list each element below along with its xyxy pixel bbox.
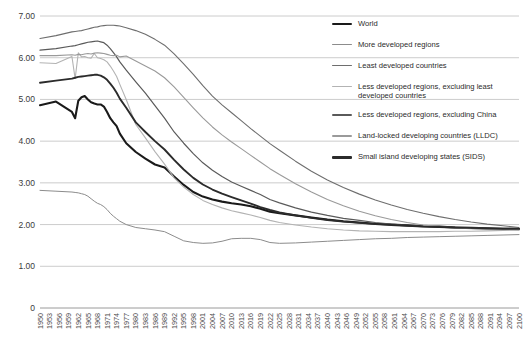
x-axis-tick-label: 2070 — [419, 313, 428, 329]
x-axis-tick-label: 2067 — [409, 313, 418, 329]
x-axis-tick-label: 2031 — [294, 313, 303, 329]
x-axis-tick-label: 2079 — [448, 313, 457, 329]
legend-item-label: Land-locked developing countries (LLDC) — [358, 130, 498, 140]
x-axis-tick-label: 2043 — [333, 313, 342, 329]
x-axis-tick-label: 1983 — [141, 313, 150, 329]
chart-container: 7.006.005.004.003.002.001.000 1950195319… — [0, 0, 524, 351]
x-axis-tick-label: 2073 — [428, 313, 437, 329]
legend-item[interactable]: Less developed regions, excluding least … — [332, 81, 518, 100]
x-axis-tick-label: 1959 — [64, 313, 73, 329]
x-axis-tick-label: 2061 — [390, 313, 399, 329]
y-axis-tick-label: 3.00 — [18, 178, 35, 188]
x-axis-tick-label: 1974 — [112, 313, 121, 329]
x-axis-tick-label: 2088 — [476, 313, 485, 329]
legend-color-swatch — [332, 151, 352, 163]
x-axis-tick-label: 2016 — [246, 313, 255, 329]
x-axis-tick-label: 1998 — [189, 313, 198, 329]
x-axis-tick-label: 2055 — [371, 313, 380, 329]
legend-item-label: Small island developing states (SIDS) — [358, 151, 485, 161]
series-line — [40, 190, 519, 243]
x-axis-tick-labels: 1950195319561959196219651968197119741977… — [36, 313, 524, 329]
x-axis-tick-label: 1953 — [45, 313, 54, 329]
x-axis-tick-label: 2052 — [361, 313, 370, 329]
x-axis-tick-label: 2094 — [495, 313, 504, 329]
y-axis-tick-label: 4.00 — [18, 136, 35, 146]
legend-color-swatch — [332, 109, 352, 121]
legend-item-label: Less developed regions, excluding least … — [358, 81, 493, 100]
legend-color-swatch — [332, 39, 352, 51]
x-axis-tick-label: 2004 — [208, 313, 217, 329]
y-axis-tick-label: 1.00 — [18, 261, 35, 271]
x-axis-tick-label: 1980 — [131, 313, 140, 329]
legend-item[interactable]: Small island developing states (SIDS) — [332, 151, 518, 163]
x-axis-tick-label: 2097 — [505, 313, 514, 329]
legend-item-label: Least developed countries — [358, 60, 447, 70]
y-axis-tick-labels: 7.006.005.004.003.002.001.000 — [18, 11, 35, 313]
x-axis-tick-label: 2010 — [227, 313, 236, 329]
legend-item[interactable]: World — [332, 18, 518, 30]
x-axis-tick-label: 2082 — [457, 313, 466, 329]
x-axis-tick-label: 2022 — [266, 313, 275, 329]
x-axis-tick-label: 2058 — [380, 313, 389, 329]
legend-color-swatch — [332, 81, 352, 93]
legend-item-label: Less developed regions, excluding China — [358, 109, 496, 119]
x-axis-tick-label: 1992 — [170, 313, 179, 329]
x-axis-tick-label: 1977 — [122, 313, 131, 329]
x-axis-tick-label: 1995 — [179, 313, 188, 329]
x-axis-tick-label: 2025 — [275, 313, 284, 329]
x-axis-tick-label: 2013 — [237, 313, 246, 329]
x-axis-tick-label: 2064 — [400, 313, 409, 329]
x-axis-tick-label: 1956 — [55, 313, 64, 329]
legend-item[interactable]: Land-locked developing countries (LLDC) — [332, 130, 518, 142]
y-axis-tick-label: 2.00 — [18, 220, 35, 230]
x-axis-tick-label: 2037 — [313, 313, 322, 329]
x-axis-tick-label: 1962 — [74, 313, 83, 329]
legend-item[interactable]: Less developed regions, excluding China — [332, 109, 518, 121]
legend-color-swatch — [332, 18, 352, 30]
x-axis-tick-label: 2049 — [352, 313, 361, 329]
x-axis-tick-label: 1950 — [36, 313, 45, 329]
x-axis-tick-label: 1989 — [160, 313, 169, 329]
legend-item-label: World — [358, 18, 378, 28]
legend-color-swatch — [332, 60, 352, 72]
x-axis-tick-label: 2091 — [486, 313, 495, 329]
y-axis-tick-label: 5.00 — [18, 94, 35, 104]
x-axis-tick-label: 2028 — [285, 313, 294, 329]
x-axis-tick-label: 2001 — [198, 313, 207, 329]
x-axis-tick-label: 2100 — [515, 313, 524, 329]
x-axis-tick-label: 1968 — [93, 313, 102, 329]
y-axis-tick-label: 0 — [30, 303, 35, 313]
legend-item[interactable]: Least developed countries — [332, 60, 518, 72]
legend-item[interactable]: More developed regions — [332, 39, 518, 51]
x-axis-tick-label: 2034 — [304, 313, 313, 329]
x-axis-tick-label: 2007 — [218, 313, 227, 329]
x-axis-tick-label: 2040 — [323, 313, 332, 329]
y-axis-tick-label: 7.00 — [18, 11, 35, 21]
x-axis-tick-label: 2019 — [256, 313, 265, 329]
x-axis-tick-label: 2085 — [467, 313, 476, 329]
x-axis-tick-label: 2076 — [438, 313, 447, 329]
y-axis-tick-label: 6.00 — [18, 53, 35, 63]
legend-item-label: More developed regions — [358, 39, 439, 49]
x-axis-tick-label: 2046 — [342, 313, 351, 329]
chart-legend: WorldMore developed regionsLeast develop… — [332, 18, 518, 172]
legend-color-swatch — [332, 130, 352, 142]
x-axis-tick-label: 1986 — [151, 313, 160, 329]
x-axis-tick-label: 1971 — [103, 313, 112, 329]
x-axis-tick-label: 1965 — [84, 313, 93, 329]
